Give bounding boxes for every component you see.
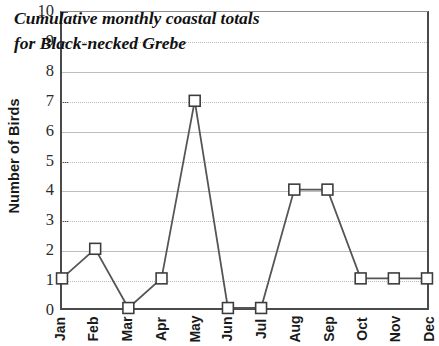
y-axis-tick-label: 6 <box>30 122 54 139</box>
x-axis-tick-label: Sep <box>311 312 345 346</box>
x-axis-tick-label-text: Nov <box>387 316 403 342</box>
data-point-marker <box>90 243 101 254</box>
x-axis-tick-label: Apr <box>144 312 178 346</box>
y-axis-tick-label: 7 <box>30 92 54 109</box>
data-point-marker <box>322 184 333 195</box>
x-axis-tick-label: Nov <box>378 312 412 346</box>
y-axis-tick-label: 2 <box>30 242 54 259</box>
data-point-marker <box>422 273 433 284</box>
x-axis-tick-label: Jun <box>211 312 245 346</box>
y-axis-tick-label: 3 <box>30 212 54 229</box>
data-point-marker <box>156 273 167 284</box>
data-point-marker <box>189 95 200 106</box>
data-point-marker <box>388 273 399 284</box>
y-axis-tick-label: 10 <box>30 3 54 20</box>
plot-area <box>60 11 429 310</box>
x-axis-tick-label-text: Oct <box>354 317 370 340</box>
x-axis-tick-label: Jan <box>43 312 77 346</box>
x-axis-tick-label: May <box>177 312 211 346</box>
x-axis-tick-label: Jul <box>244 312 278 346</box>
x-axis-tick-label: Feb <box>77 312 111 346</box>
y-axis-tick-label: 4 <box>30 182 54 199</box>
plot-inner <box>62 12 427 308</box>
data-line <box>62 101 427 308</box>
y-axis-tick-label: 8 <box>30 63 54 80</box>
x-axis-tick-label: Mar <box>110 312 144 346</box>
x-axis-tick-label: Oct <box>345 312 379 346</box>
data-point-marker <box>355 273 366 284</box>
x-axis-tick-label-text: Jan <box>52 317 68 341</box>
x-axis-tick-label-text: Feb <box>86 317 102 342</box>
x-axis-tick-label-text: Jul <box>253 319 269 339</box>
data-series-layer <box>62 12 427 308</box>
y-axis-tick-label: 1 <box>30 272 54 289</box>
y-axis-tick-label: 9 <box>30 33 54 50</box>
x-axis-tick-label: Aug <box>278 312 312 346</box>
data-point-marker <box>289 184 300 195</box>
y-axis-title-text: Number of Birds <box>6 98 22 213</box>
x-axis-tick-label-text: Aug <box>287 315 303 342</box>
x-axis-tick-label-text: Apr <box>153 317 169 341</box>
x-axis-tick-label-text: Sep <box>320 316 336 342</box>
x-axis-tick-label-text: Mar <box>119 317 135 342</box>
x-axis-tick-label: Dec <box>412 312 439 346</box>
y-axis-tick-labels: 012345678910 <box>24 0 54 346</box>
x-axis-tick-label-text: May <box>186 315 202 342</box>
x-axis-tick-label-text: Dec <box>421 316 437 342</box>
data-point-marker <box>57 273 68 284</box>
x-axis-tick-labels: JanFebMarAprMayJunJulAugSepOctNovDec <box>60 312 429 346</box>
chart-container: Number of Birds 012345678910 Cumulative … <box>0 0 439 346</box>
x-axis-tick-label-text: Jun <box>220 317 236 342</box>
y-axis-tick-label: 5 <box>30 152 54 169</box>
